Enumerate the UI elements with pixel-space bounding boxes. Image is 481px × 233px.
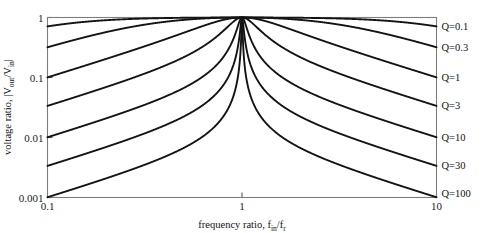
- series-label-q10: Q=10: [442, 132, 466, 143]
- x-tick-label: 10: [431, 200, 443, 212]
- chart-figure: 0.1110 10.10.010.001 Q=0.1Q=0.3Q=1Q=3Q=1…: [0, 0, 481, 233]
- curve-q100: [48, 18, 437, 198]
- y-axis-title: voltage ratio, |Vout/Vin|: [2, 59, 16, 155]
- series-label-q100: Q=100: [442, 188, 471, 199]
- series-label-q1: Q=1: [442, 72, 461, 83]
- plot-frame: [48, 18, 437, 198]
- x-tick-label: 1: [239, 200, 245, 212]
- x-axis-title: frequency ratio, fin/fr: [198, 219, 286, 233]
- series-label-q01: Q=0.1: [442, 21, 469, 32]
- series-label-layer: Q=0.1Q=0.3Q=1Q=3Q=10Q=30Q=100: [442, 21, 471, 199]
- y-tick-label: 0.001: [19, 192, 44, 204]
- series-label-q30: Q=30: [442, 160, 466, 171]
- curve-layer: [48, 18, 437, 198]
- x-tick-label-layer: 0.1110: [41, 200, 443, 212]
- y-tick-label: 0.1: [30, 72, 44, 84]
- y-tick-label-layer: 10.10.010.001: [19, 12, 44, 204]
- y-tick-label: 1: [38, 12, 44, 24]
- y-tick-label: 0.01: [24, 132, 43, 144]
- series-label-q03: Q=0.3: [442, 42, 469, 53]
- series-label-q3: Q=3: [442, 100, 461, 111]
- chart-canvas: 0.1110 10.10.010.001 Q=0.1Q=0.3Q=1Q=3Q=1…: [0, 0, 481, 233]
- tick-layer: [48, 18, 437, 198]
